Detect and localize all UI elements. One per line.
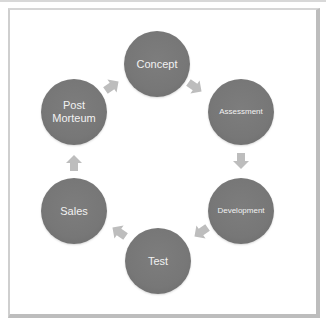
node-label: Sales — [60, 205, 88, 218]
node-label: Development — [217, 206, 264, 215]
node-test: Test — [125, 228, 191, 294]
node-label: Assessment — [219, 107, 263, 116]
node-development: Development — [208, 178, 274, 244]
node-post-morteum: Post Morteum — [41, 79, 107, 145]
node-assessment: Assessment — [208, 79, 274, 145]
node-label: Test — [148, 255, 168, 268]
node-label: Concept — [137, 58, 178, 71]
arrow-assessment-to-development-icon — [232, 152, 250, 170]
node-concept: Concept — [124, 31, 190, 97]
arrow-sales-to-post-morteum-icon — [65, 154, 83, 172]
node-label-line-2: Morteum — [52, 112, 95, 125]
node-sales: Sales — [41, 178, 107, 244]
top-edge-line — [0, 0, 326, 2]
node-label-line-1: Post — [52, 99, 95, 112]
